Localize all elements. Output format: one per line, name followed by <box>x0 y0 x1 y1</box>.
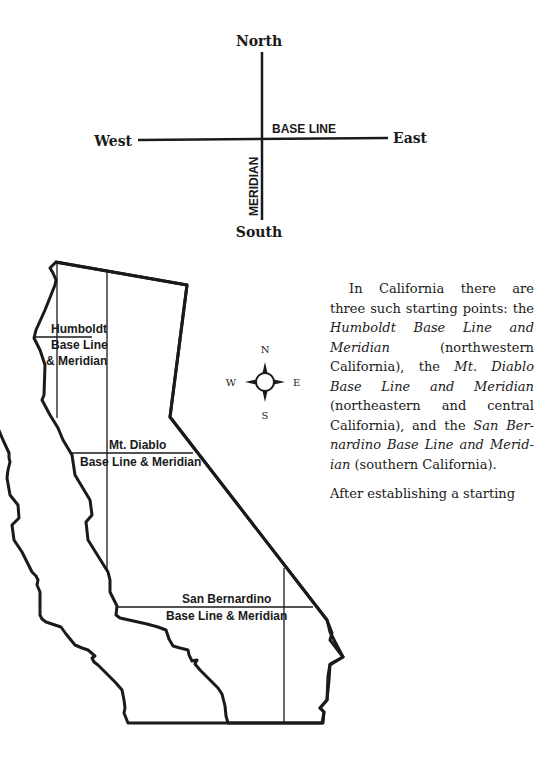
humboldt-label-line1: Humboldt <box>51 322 107 336</box>
paragraph-starting-points: In California there are three such start… <box>330 279 534 474</box>
compass-rose-icon: N S E W <box>226 344 301 421</box>
text-run: In California there are three such start… <box>330 281 534 316</box>
text-run: (southern California). <box>350 457 496 472</box>
body-text-column: In California there are three such start… <box>330 279 534 514</box>
humboldt-label-line2: Base Line <box>51 338 108 352</box>
paragraph-after-establishing: After establishing a starting <box>330 484 534 504</box>
compass-w-label: W <box>226 377 237 388</box>
san-bernardino-label-line1: San Bernardino <box>182 592 271 606</box>
compass-e-label: E <box>293 377 300 388</box>
compass-n-label: N <box>261 344 270 355</box>
compass-s-label: S <box>262 410 269 421</box>
humboldt-label-line3: & Meridian <box>46 354 107 368</box>
mt-diablo-label-line2: Base Line & Meridian <box>80 455 201 469</box>
san-bernardino-label-line2: Base Line & Meridian <box>166 609 287 623</box>
mt-diablo-label-line1: Mt. Diablo <box>109 438 166 452</box>
